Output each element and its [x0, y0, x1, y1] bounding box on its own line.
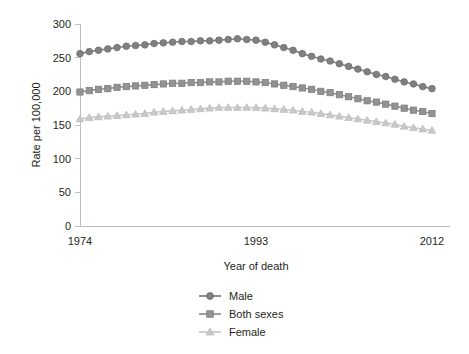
data-point-square	[188, 79, 194, 85]
legend-item-male[interactable]: Male	[199, 290, 253, 302]
data-point-circle	[216, 37, 223, 44]
legend-item-label: Female	[229, 326, 266, 338]
data-point-square	[262, 79, 268, 85]
data-point-square	[216, 79, 222, 85]
x-tick-label: 1993	[244, 235, 268, 247]
y-tick-label: 100	[53, 153, 71, 165]
data-point-square	[355, 96, 361, 102]
data-point-circle	[392, 76, 399, 83]
data-point-circle	[419, 83, 426, 90]
data-point-circle	[197, 38, 204, 45]
x-tick-label: 1974	[68, 235, 92, 247]
y-tick-label: 50	[59, 186, 71, 198]
data-point-circle	[77, 50, 84, 57]
data-point-square	[290, 84, 296, 90]
y-axis-title: Rate per 100,000	[30, 82, 42, 167]
data-point-square	[244, 78, 250, 84]
data-point-circle	[206, 38, 213, 45]
legend-item-label: Male	[229, 290, 253, 302]
data-point-circle	[225, 36, 232, 43]
series-female	[76, 104, 436, 134]
data-point-square	[95, 86, 101, 92]
data-point-square	[308, 86, 314, 92]
data-point-square	[197, 79, 203, 85]
data-point-square	[77, 89, 83, 95]
data-point-square	[160, 81, 166, 87]
x-tick-label: 2012	[420, 235, 444, 247]
series-both-sexes	[77, 78, 435, 117]
data-point-square	[420, 108, 426, 114]
data-point-square	[132, 83, 138, 89]
y-tick-label: 200	[53, 85, 71, 97]
data-point-circle	[308, 53, 315, 60]
data-point-circle	[86, 48, 93, 55]
data-point-circle	[104, 46, 111, 53]
data-point-circle	[373, 71, 380, 78]
data-point-circle	[345, 63, 352, 70]
data-point-circle	[123, 43, 130, 50]
data-point-square	[207, 311, 214, 318]
data-point-square	[234, 78, 240, 84]
legend-item-both-sexes[interactable]: Both sexes	[199, 308, 284, 320]
data-point-circle	[243, 36, 250, 43]
data-point-square	[383, 101, 389, 107]
data-point-circle	[410, 81, 417, 88]
series-line	[80, 107, 432, 130]
y-tick-label: 250	[53, 52, 71, 64]
data-point-circle	[401, 79, 408, 86]
data-point-square	[225, 78, 231, 84]
data-point-circle	[318, 56, 325, 63]
data-point-square	[429, 110, 435, 116]
data-point-square	[170, 80, 176, 86]
data-point-square	[123, 84, 129, 90]
data-point-square	[142, 82, 148, 88]
data-point-circle	[327, 58, 334, 65]
data-point-circle	[429, 85, 436, 92]
data-point-square	[364, 98, 370, 104]
data-point-square	[86, 88, 92, 94]
y-tick-label: 0	[65, 220, 71, 232]
data-point-square	[327, 90, 333, 96]
legend-item-female[interactable]: Female	[199, 326, 266, 338]
data-point-square	[271, 81, 277, 87]
data-point-circle	[290, 47, 297, 54]
data-point-circle	[336, 60, 343, 67]
chart-figure: 050100150200250300197419932012Year of de…	[0, 0, 469, 354]
data-point-circle	[132, 42, 139, 49]
line-chart: 050100150200250300197419932012Year of de…	[0, 0, 469, 354]
data-point-circle	[262, 39, 269, 46]
data-point-circle	[114, 44, 121, 51]
data-point-square	[207, 79, 213, 85]
data-point-square	[346, 94, 352, 100]
data-point-square	[281, 82, 287, 88]
data-point-circle	[95, 47, 102, 54]
data-point-circle	[151, 40, 158, 47]
data-point-circle	[179, 38, 186, 45]
data-point-circle	[271, 42, 278, 49]
data-point-circle	[364, 69, 371, 76]
data-point-circle	[188, 38, 195, 45]
data-point-circle	[207, 293, 214, 300]
data-point-square	[401, 105, 407, 111]
data-point-square	[318, 88, 324, 94]
axes: 050100150200250300197419932012	[53, 18, 450, 247]
data-point-circle	[160, 40, 167, 47]
data-point-square	[151, 82, 157, 88]
data-point-circle	[253, 37, 260, 44]
x-axis-title: Year of death	[223, 260, 288, 272]
data-point-square	[336, 92, 342, 98]
data-point-circle	[234, 36, 241, 43]
data-point-square	[253, 79, 259, 85]
data-point-square	[373, 99, 379, 105]
legend-item-label: Both sexes	[229, 308, 284, 320]
data-point-square	[114, 84, 120, 90]
data-point-circle	[299, 50, 306, 57]
data-point-square	[299, 85, 305, 91]
data-point-square	[392, 103, 398, 109]
chart-legend: MaleBoth sexesFemale	[199, 290, 284, 338]
data-point-circle	[142, 42, 149, 49]
data-point-square	[105, 86, 111, 92]
data-point-square	[410, 107, 416, 113]
data-point-circle	[382, 73, 389, 80]
y-tick-label: 150	[53, 119, 71, 131]
